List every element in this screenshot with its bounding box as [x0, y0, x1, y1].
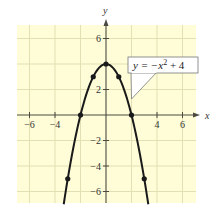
- parabola-chart: −6−44662−2−4−6 y = −x2 + 4 x y: [0, 0, 217, 215]
- data-point: [142, 176, 147, 181]
- equation-label: y = −x2 + 4: [132, 58, 185, 71]
- data-point: [116, 74, 121, 79]
- y-tick-label: −6: [90, 186, 101, 197]
- x-tick-label: 4: [155, 119, 160, 130]
- x-tick-label: −4: [50, 119, 61, 130]
- y-tick-label: −2: [90, 135, 101, 146]
- y-axis-arrow-icon: [104, 19, 109, 26]
- x-axis-label: x: [204, 110, 210, 121]
- data-point: [129, 112, 134, 117]
- y-tick-label: 6: [96, 33, 101, 44]
- x-axis-arrow-icon: [193, 113, 200, 118]
- y-tick-label: −4: [90, 161, 101, 172]
- data-point: [91, 74, 96, 79]
- data-point: [78, 112, 83, 117]
- data-point: [65, 176, 70, 181]
- x-tick-label: 6: [180, 119, 185, 130]
- y-tick-label: 2: [96, 84, 101, 95]
- y-axis-label: y: [102, 5, 108, 16]
- data-point: [103, 61, 108, 66]
- x-tick-label: −6: [24, 119, 35, 130]
